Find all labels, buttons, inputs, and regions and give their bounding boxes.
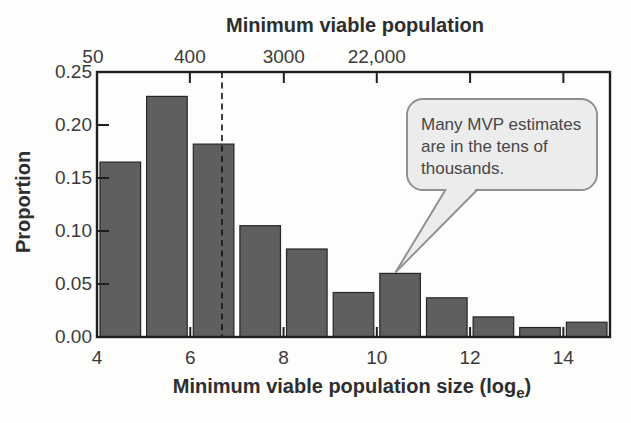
- y-axis-tick-label: 0.15: [55, 167, 92, 188]
- histogram-bar: [100, 162, 141, 337]
- x-axis-tick-label: 6: [185, 347, 196, 368]
- histogram-bar: [240, 226, 281, 337]
- x-axis-tick-label: 12: [460, 347, 481, 368]
- histogram-bar: [147, 96, 188, 337]
- x-axis-title-main: Minimum viable population size (log: [173, 375, 516, 397]
- y-axis-title: Proportion: [12, 151, 34, 253]
- x-axis-title-subscript: e: [516, 384, 524, 401]
- histogram-bar: [287, 249, 328, 337]
- x-axis-title: Minimum viable population size (loge): [173, 375, 531, 401]
- x-axis-tick-label: 8: [278, 347, 289, 368]
- callout: Many MVP estimates are in the tens of th…: [395, 99, 597, 272]
- top-axis-tick-label: 22,000: [348, 46, 406, 67]
- callout-tail-edge-left: [395, 189, 446, 272]
- histogram-bar: [193, 144, 234, 337]
- x-axis-title-close: ): [525, 375, 532, 397]
- x-axis-tick-label: 10: [366, 347, 387, 368]
- histogram-bar: [333, 293, 374, 338]
- y-axis-tick-label: 0.10: [55, 220, 92, 241]
- y-axis-tick-label: 0.00: [55, 326, 92, 347]
- callout-text-line-3: thousands.: [421, 159, 504, 178]
- callout-tail-edge-right: [395, 189, 478, 272]
- y-axis-tick-label: 0.05: [55, 273, 92, 294]
- histogram-bar: [566, 322, 607, 337]
- top-axis-tick-label: 400: [174, 46, 206, 67]
- histogram-bar: [520, 328, 561, 338]
- x-axis-tick-label: 4: [92, 347, 103, 368]
- y-axis-tick-label: 0.25: [55, 61, 92, 82]
- histogram-bar: [380, 273, 421, 337]
- top-axis-tick-label: 3000: [263, 46, 305, 67]
- x-axis-tick-label: 14: [553, 347, 575, 368]
- histogram-bar: [427, 298, 468, 337]
- top-axis-title: Minimum viable population: [226, 14, 484, 36]
- callout-text-line-1: Many MVP estimates: [421, 115, 581, 134]
- callout-text-line-2: are in the tens of: [421, 137, 548, 156]
- y-axis-tick-label: 0.20: [55, 114, 92, 135]
- histogram-chart: 46810121450400300022,0000.000.050.100.15…: [0, 0, 631, 423]
- histogram-bar: [473, 317, 514, 337]
- mvp-histogram-figure: 46810121450400300022,0000.000.050.100.15…: [0, 0, 631, 423]
